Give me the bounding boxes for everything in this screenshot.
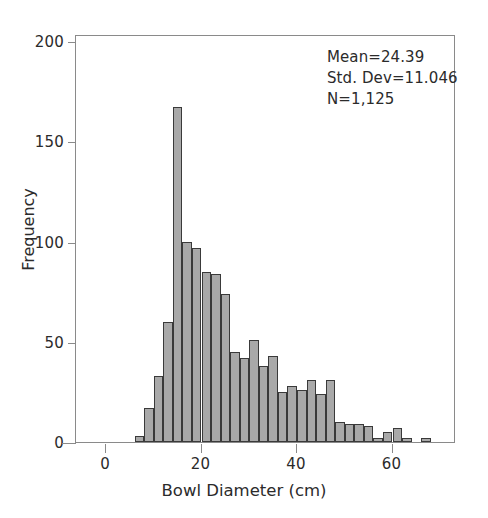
histogram-bar bbox=[259, 366, 269, 442]
x-axis-tick-label: 40 bbox=[286, 455, 306, 473]
y-axis-tick-mark bbox=[68, 42, 76, 43]
histogram-bar bbox=[268, 356, 278, 442]
sample-size-label: N=1,125 bbox=[327, 89, 458, 110]
histogram-bar bbox=[307, 380, 317, 442]
x-axis-tick-mark bbox=[105, 444, 106, 453]
histogram-bar bbox=[383, 432, 393, 442]
histogram-bar bbox=[326, 380, 336, 442]
y-axis-tick-label: 100 bbox=[35, 234, 64, 252]
histogram-bar bbox=[154, 376, 164, 442]
histogram-bar bbox=[393, 428, 403, 442]
histogram-bar bbox=[144, 408, 154, 442]
histogram-bar bbox=[345, 424, 355, 442]
y-axis-tick-mark bbox=[68, 443, 76, 444]
mean-label: Mean=24.39 bbox=[327, 47, 458, 68]
x-axis-tick-mark bbox=[392, 444, 393, 453]
y-axis-tick-label: 50 bbox=[45, 334, 65, 352]
histogram-figure: 050100150200 Frequency 0204060 Bowl Diam… bbox=[0, 0, 488, 518]
y-axis-tick-mark bbox=[68, 142, 76, 143]
histogram-bar bbox=[211, 274, 221, 442]
histogram-bar bbox=[402, 438, 412, 442]
histogram-bar bbox=[221, 294, 231, 442]
histogram-bar bbox=[316, 394, 326, 442]
histogram-bar bbox=[230, 352, 240, 442]
std-dev-label: Std. Dev=11.046 bbox=[327, 68, 458, 89]
y-axis-tick-mark bbox=[68, 243, 76, 244]
histogram-bar bbox=[163, 322, 173, 442]
x-axis-title: Bowl Diameter (cm) bbox=[0, 481, 488, 500]
x-axis-tick-mark bbox=[296, 444, 297, 453]
histogram-bar bbox=[421, 438, 431, 442]
x-axis-tick-label: 60 bbox=[382, 455, 402, 473]
x-axis-tick-mark bbox=[201, 444, 202, 453]
histogram-bar bbox=[373, 438, 383, 442]
x-axis-tick-label: 20 bbox=[191, 455, 211, 473]
histogram-bar bbox=[182, 242, 192, 443]
histogram-bar bbox=[287, 386, 297, 442]
histogram-bar bbox=[135, 436, 145, 442]
histogram-bar bbox=[297, 390, 307, 442]
histogram-bar bbox=[354, 424, 364, 442]
y-axis-tick-label: 150 bbox=[35, 133, 64, 151]
histogram-bar bbox=[173, 107, 183, 442]
histogram-bar bbox=[192, 248, 202, 442]
y-axis-title: Frequency bbox=[19, 110, 38, 350]
y-axis-tick-label: 200 bbox=[35, 33, 64, 51]
histogram-bar bbox=[202, 272, 212, 442]
histogram-bar bbox=[249, 340, 259, 442]
statistics-annotation: Mean=24.39 Std. Dev=11.046 N=1,125 bbox=[327, 47, 458, 110]
histogram-bar bbox=[278, 392, 288, 442]
x-axis-tick-label: 0 bbox=[100, 455, 110, 473]
histogram-bar bbox=[364, 426, 374, 442]
y-axis-tick-mark bbox=[68, 343, 76, 344]
histogram-bar bbox=[335, 422, 345, 442]
histogram-bar bbox=[240, 358, 250, 442]
